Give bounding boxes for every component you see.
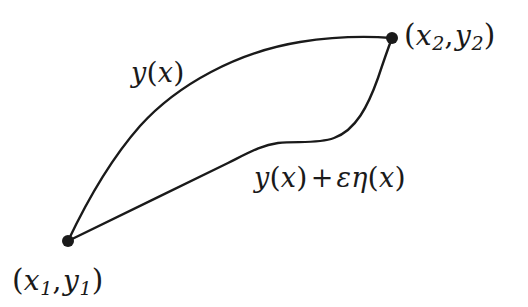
lower-curve-variable-1: x (281, 162, 296, 193)
label-upper-curve: y(x) (131, 58, 185, 87)
label-lower-curve: y(x)+εη(x) (254, 163, 406, 192)
endpoint-dot-upper-right (386, 32, 398, 44)
p1-close-paren: ) (92, 262, 104, 297)
p2-y-symbol: y (455, 19, 471, 52)
p1-comma: , (52, 264, 61, 297)
label-endpoint-upper-right: (x2,y2) (404, 20, 495, 53)
lower-curve-open-paren-1: ( (269, 160, 280, 194)
variational-path-figure: y(x) y(x)+εη(x) (x2,y2) (x1,y1) (0, 0, 528, 307)
p1-y-subscript: 1 (80, 277, 92, 299)
lower-curve-base-function: y (254, 162, 269, 193)
lower-curve-close-paren-1: ) (296, 160, 307, 194)
p2-y-subscript: 2 (472, 32, 484, 54)
upper-curve-close-paren: ) (173, 55, 184, 89)
p1-x-subscript: 1 (40, 277, 52, 299)
p2-close-paren: ) (484, 17, 496, 52)
upper-curve-open-paren: ( (146, 55, 157, 89)
lower-curve-close-paren-2: ) (394, 160, 405, 194)
p2-x-subscript: 2 (432, 32, 444, 54)
label-endpoint-lower-left: (x1,y1) (12, 265, 103, 298)
p2-open-paren: ( (404, 17, 416, 52)
eta-symbol: η (351, 162, 367, 193)
upper-curve-variable: x (158, 57, 173, 88)
lower-curve-plus-operator: + (311, 162, 334, 193)
p1-x-symbol: x (24, 264, 40, 297)
lower-curve-variable-2: x (379, 162, 394, 193)
p2-x-symbol: x (416, 19, 432, 52)
p1-open-paren: ( (12, 262, 24, 297)
p2-comma: , (444, 19, 453, 52)
endpoint-dot-lower-left (62, 235, 74, 247)
lower-curve-open-paren-2: ( (368, 160, 379, 194)
upper-curve-function: y (131, 57, 146, 88)
p1-y-symbol: y (63, 264, 79, 297)
epsilon-symbol: ε (336, 162, 351, 193)
